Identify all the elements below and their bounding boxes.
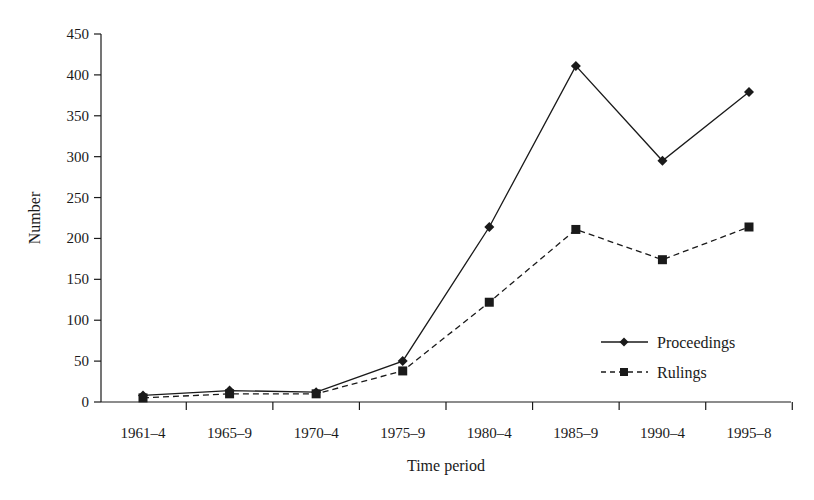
x-tick-label: 1980–4 [467, 425, 513, 441]
legend: ProceedingsRulings [601, 334, 735, 382]
square-marker-icon [398, 366, 407, 375]
x-tick-label: 1961–4 [121, 425, 167, 441]
y-tick-label: 50 [74, 353, 89, 369]
x-tick-label: 1990–4 [640, 425, 686, 441]
y-tick-label: 0 [82, 394, 90, 410]
square-marker-icon [745, 222, 754, 231]
y-tick-label: 450 [67, 26, 90, 42]
square-marker-icon [571, 225, 580, 234]
diamond-marker-icon [398, 356, 408, 366]
legend-label: Proceedings [657, 334, 735, 352]
legend-label: Rulings [657, 364, 707, 382]
line-chart: 050100150200250300350400450 1961–41965–9… [0, 0, 814, 500]
y-tick-label: 350 [67, 108, 90, 124]
y-tick-label: 400 [67, 67, 90, 83]
x-tick-label: 1970–4 [294, 425, 340, 441]
x-tick-label: 1965–9 [207, 425, 252, 441]
square-marker-icon [620, 368, 628, 376]
y-axis: 050100150200250300350400450 [67, 26, 102, 410]
x-axis: 1961–41965–91970–41975–91980–41985–91990… [101, 402, 792, 441]
legend-item-proceedings: Proceedings [601, 334, 735, 352]
legend-item-rulings: Rulings [601, 364, 707, 382]
square-marker-icon [658, 255, 667, 264]
y-axis-title: Number [26, 191, 43, 244]
x-axis-title: Time period [407, 457, 485, 475]
y-tick-label: 100 [67, 312, 90, 328]
x-tick-label: 1995–8 [727, 425, 772, 441]
square-marker-icon [485, 298, 494, 307]
series-layer [138, 61, 754, 403]
y-tick-label: 300 [67, 149, 90, 165]
diamond-marker-icon [484, 222, 494, 232]
y-tick-label: 150 [67, 271, 90, 287]
x-tick-label: 1975–9 [380, 425, 425, 441]
y-tick-label: 200 [67, 230, 90, 246]
diamond-marker-icon [620, 338, 629, 347]
x-tick-label: 1985–9 [553, 425, 598, 441]
y-tick-label: 250 [67, 190, 90, 206]
